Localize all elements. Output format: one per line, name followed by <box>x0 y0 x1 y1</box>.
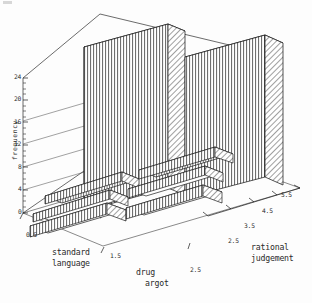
y-axis-ticks <box>23 78 28 213</box>
z-axis-title-line1: rational <box>251 243 289 252</box>
z-tick-2_5: 2.5 <box>228 238 239 245</box>
z-axis-title-line2: judgement <box>251 254 294 263</box>
x-axis-title-standard-language-line1: standard <box>52 248 90 257</box>
y-tick-20: 20 <box>14 96 21 103</box>
z-tick-4_5: 4.5 <box>262 208 273 215</box>
y-tick-0: 0 <box>18 209 22 216</box>
y-tick-12: 12 <box>14 141 21 148</box>
x-tick-1_5: 1.5 <box>110 253 121 260</box>
x-tick-0_5: 0.5 <box>26 232 37 239</box>
x-axis-title-standard-language-line2: language <box>52 259 90 268</box>
z-tick-3_5: 3.5 <box>244 223 255 230</box>
z-tick-5_5: 5.5 <box>281 192 292 199</box>
y-tick-8: 8 <box>18 164 22 171</box>
x-axis-title-drug-argot-line1: drug <box>136 268 155 277</box>
x-axis-title-drug-argot-line2: argot <box>145 279 169 288</box>
y-tick-24: 24 <box>14 74 21 81</box>
chart-figure: frequency 24 20 16 12 8 4 0 0.5 1.5 2.5 … <box>0 0 312 303</box>
y-tick-16: 16 <box>14 119 21 126</box>
x-tick-2_5: 2.5 <box>190 267 201 274</box>
y-tick-4: 4 <box>18 186 22 193</box>
